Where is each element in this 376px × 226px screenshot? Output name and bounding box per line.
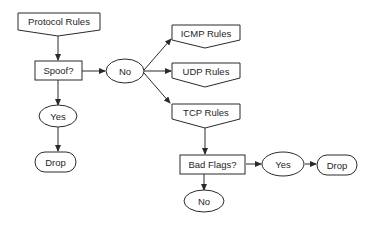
- edge-no-to-icmp: [144, 39, 171, 70]
- svg-text:Drop: Drop: [45, 157, 66, 168]
- edge-no-to-tcp: [144, 73, 170, 103]
- svg-text:No: No: [198, 196, 210, 207]
- node-bad-flags-decision: Bad Flags?: [180, 155, 245, 174]
- node-spoof-decision: Spoof?: [35, 61, 82, 80]
- svg-text:UDP Rules: UDP Rules: [183, 66, 230, 77]
- svg-text:Yes: Yes: [275, 159, 291, 170]
- node-udp-rules: UDP Rules: [172, 63, 240, 87]
- node-flags-yes: Yes: [262, 152, 304, 176]
- node-drop-1: Drop: [35, 152, 76, 172]
- node-spoof-yes: Yes: [39, 105, 77, 127]
- node-spoof-no: No: [106, 59, 144, 83]
- node-drop-2: Drop: [317, 155, 357, 175]
- node-icmp-rules: ICMP Rules: [172, 25, 240, 48]
- svg-text:Drop: Drop: [327, 160, 348, 171]
- svg-text:Spoof?: Spoof?: [43, 65, 73, 76]
- svg-text:Protocol Rules: Protocol Rules: [28, 16, 90, 27]
- svg-text:ICMP Rules: ICMP Rules: [181, 28, 232, 39]
- node-tcp-rules: TCP Rules: [172, 104, 240, 128]
- svg-text:No: No: [119, 66, 131, 77]
- svg-text:Yes: Yes: [50, 111, 66, 122]
- node-flags-no: No: [184, 190, 224, 212]
- svg-text:TCP Rules: TCP Rules: [183, 107, 229, 118]
- flowchart-canvas: Protocol Rules Spoof? No Yes Drop ICMP R…: [0, 0, 376, 226]
- svg-text:Bad Flags?: Bad Flags?: [188, 159, 236, 170]
- node-protocol-rules: Protocol Rules: [18, 13, 100, 36]
